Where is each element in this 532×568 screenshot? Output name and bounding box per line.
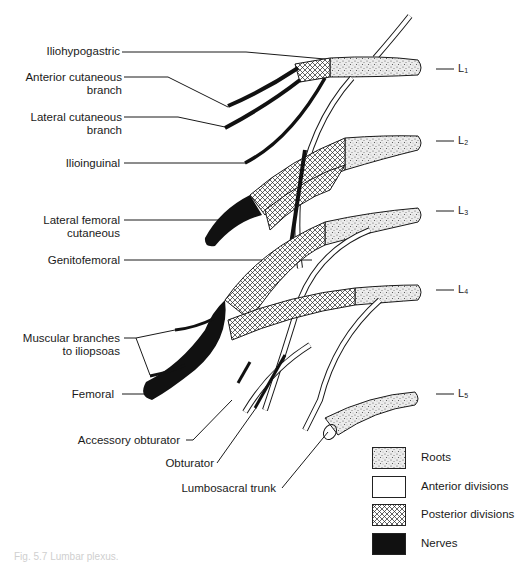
label-genitofemoral: Genitofemoral [48, 254, 120, 267]
label-muscular-line2: to iliopsoas [23, 345, 120, 358]
level-l3: L3 [458, 204, 468, 216]
label-anterior-cutaneous-line1: Anterior cutaneous [25, 71, 122, 84]
label-ilioinguinal: Ilioinguinal [66, 157, 120, 170]
label-iliohypogastric: Iliohypogastric [46, 45, 120, 58]
legend-item-posterior-divisions: Posterior divisions [372, 504, 532, 528]
legend-label: Roots [421, 451, 451, 463]
figure-caption: Fig. 5.7 Lumbar plexus. [14, 551, 119, 562]
legend-label: Posterior divisions [421, 508, 514, 520]
stipple-swatch-icon [372, 447, 406, 469]
legend-item-nerves: Nerves [372, 533, 532, 557]
level-l5: L5 [458, 387, 468, 399]
l5-root-and-trunk [321, 392, 418, 442]
legend-item-roots: Roots [372, 447, 532, 471]
label-muscular-branches: Muscular branches to iliopsoas [23, 332, 120, 358]
label-anterior-cutaneous-branch: Anterior cutaneous branch [25, 71, 122, 97]
solid-swatch-icon [372, 533, 406, 555]
level-l1: L1 [458, 62, 468, 74]
crosshatch-swatch-icon [372, 504, 406, 526]
label-lateral-femoral-line2: cutaneous [43, 227, 120, 240]
label-lateral-cutaneous-branch: Lateral cutaneous branch [31, 111, 122, 137]
level-l4: L4 [458, 283, 468, 295]
blank-swatch-icon [372, 476, 406, 498]
label-muscular-line1: Muscular branches [23, 332, 120, 345]
label-accessory-obturator: Accessory obturator [78, 434, 180, 447]
label-anterior-cutaneous-line2: branch [25, 84, 122, 97]
label-obturator: Obturator [165, 457, 214, 470]
legend-label: Anterior divisions [421, 480, 509, 492]
legend-label: Nerves [421, 537, 457, 549]
label-lateral-cutaneous-line1: Lateral cutaneous [31, 111, 122, 124]
label-lateral-cutaneous-line2: branch [31, 124, 122, 137]
label-femoral: Femoral [72, 388, 114, 401]
label-lateral-femoral-line1: Lateral femoral [43, 214, 120, 227]
label-lumbosacral-trunk: Lumbosacral trunk [181, 482, 276, 495]
label-lateral-femoral-cutaneous: Lateral femoral cutaneous [43, 214, 120, 240]
legend-item-anterior-divisions: Anterior divisions [372, 476, 532, 500]
level-l2: L2 [458, 134, 468, 146]
